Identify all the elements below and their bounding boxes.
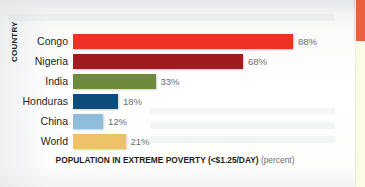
x-axis-title: POPULATION IN EXTREME POVERTY (<$1.25/DA… bbox=[0, 155, 350, 165]
bar-category-label: Nigeria bbox=[0, 55, 73, 67]
bar bbox=[73, 134, 126, 149]
bar-track: 68% bbox=[73, 51, 356, 71]
chart-plot-area: COUNTRY Congo88%Nigeria68%India33%Hondur… bbox=[0, 0, 356, 187]
bar-row: World21% bbox=[0, 131, 356, 151]
bar-row: Honduras18% bbox=[0, 91, 356, 111]
bar-value-label: 88% bbox=[298, 36, 317, 47]
bar-category-label: Honduras bbox=[0, 95, 73, 107]
bar-row: Congo88% bbox=[0, 31, 356, 51]
bar bbox=[73, 34, 293, 49]
page-edge-strip bbox=[355, 0, 365, 187]
bar-track: 88% bbox=[73, 31, 356, 51]
bar-track: 18% bbox=[73, 91, 356, 111]
bar-track: 21% bbox=[73, 131, 356, 151]
bar-category-label: Congo bbox=[0, 35, 73, 47]
bar-category-label: China bbox=[0, 115, 73, 127]
chart-figure: COUNTRY Congo88%Nigeria68%India33%Hondur… bbox=[0, 0, 365, 187]
x-axis-title-unit: (percent) bbox=[261, 155, 295, 165]
bar-value-label: 68% bbox=[248, 56, 267, 67]
bar bbox=[73, 74, 156, 89]
bar-track: 12% bbox=[73, 111, 356, 131]
bar-category-label: World bbox=[0, 135, 73, 147]
bar-row: China12% bbox=[0, 111, 356, 131]
bar bbox=[73, 114, 103, 129]
page-edge-tab bbox=[356, 0, 365, 41]
bar-row: India33% bbox=[0, 71, 356, 91]
bar bbox=[73, 54, 243, 69]
x-axis-title-main: POPULATION IN EXTREME POVERTY (<$1.25/DA… bbox=[56, 155, 259, 165]
bar-value-label: 12% bbox=[108, 116, 127, 127]
bar-row: Nigeria68% bbox=[0, 51, 356, 71]
bar-rows: Congo88%Nigeria68%India33%Honduras18%Chi… bbox=[0, 31, 356, 151]
bar-track: 33% bbox=[73, 71, 356, 91]
bar-value-label: 18% bbox=[123, 96, 142, 107]
bar bbox=[73, 94, 118, 109]
bar-value-label: 33% bbox=[161, 76, 180, 87]
bar-value-label: 21% bbox=[131, 136, 150, 147]
bar-category-label: India bbox=[0, 75, 73, 87]
